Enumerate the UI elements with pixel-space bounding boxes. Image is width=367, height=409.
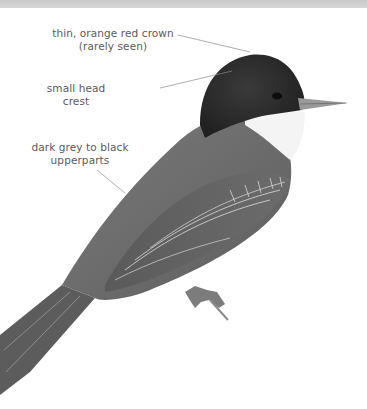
leader-line-crown — [178, 35, 250, 52]
bird-illustration — [0, 0, 367, 409]
leader-line-upperparts — [97, 170, 125, 193]
bill — [298, 98, 348, 110]
tail — [0, 285, 95, 395]
foot — [185, 286, 228, 320]
eye — [272, 93, 282, 100]
